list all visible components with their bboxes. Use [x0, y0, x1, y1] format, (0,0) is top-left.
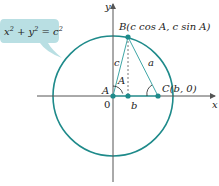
y-axis-label: y [104, 1, 111, 12]
point-C-label: C(b, 0) [162, 83, 197, 94]
callout-equation: x2 + y2 = c2 [4, 25, 63, 37]
labels-layer: x2 + y2 = c2 y x 0 B(c cos A, c sin A) C… [0, 0, 219, 186]
x-axis-label: x [212, 99, 218, 110]
point-A-label: A [101, 85, 109, 96]
point-B-label: B(c cos A, c sin A) [118, 21, 210, 32]
side-c-label: c [114, 57, 120, 68]
side-b-label: b [131, 100, 137, 111]
side-a-label: a [148, 57, 154, 68]
origin-label: 0 [104, 99, 110, 110]
angle-A-label: A [117, 75, 125, 86]
